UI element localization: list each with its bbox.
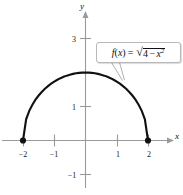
graph-canvas: y x −2 −1 1 2 3 1 −1: [0, 0, 183, 195]
x-tick-group: −2 −1 1 2: [19, 135, 151, 160]
x-axis-arrowhead: [167, 138, 174, 144]
x-tick-label-1: 1: [116, 150, 120, 159]
x-axis-label: x: [174, 131, 179, 141]
radicand-minus: −: [149, 48, 155, 59]
formula-radicand: 4−x2: [143, 48, 165, 59]
function-formula: f(x) = √ 4−x2: [112, 47, 166, 59]
y-tick-label--1: −1: [68, 171, 77, 180]
y-axis-label: y: [79, 1, 84, 11]
function-callout-box: f(x) = √ 4−x2: [96, 42, 181, 63]
formula-paren-close: ): [122, 48, 125, 58]
curve-endpoint-left: [20, 137, 26, 143]
x-tick-label--2: −2: [19, 150, 28, 159]
y-tick-group: 3 1 −1: [68, 35, 91, 180]
curve-endpoint-right: [145, 137, 151, 143]
x-tick-label-2: 2: [147, 150, 151, 159]
radicand-exponent: 2: [161, 46, 164, 53]
x-tick-label--1: −1: [50, 150, 59, 159]
formula-radical: √ 4−x2: [136, 47, 165, 59]
y-axis-arrowhead: [83, 11, 89, 18]
radical-sign-icon: √: [136, 46, 143, 58]
figure-container: y x −2 −1 1 2 3 1 −1: [0, 0, 183, 195]
radicand-constant: 4: [143, 48, 148, 59]
y-tick-label-3: 3: [72, 35, 76, 44]
callout-leader-line: [112, 63, 125, 81]
y-tick-label-1: 1: [72, 103, 76, 112]
formula-equals: =: [128, 48, 134, 58]
